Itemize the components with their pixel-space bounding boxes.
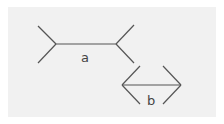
figure-a-fin (116, 44, 134, 63)
figure-a-fin (116, 25, 134, 44)
figure-b-label: b (147, 93, 155, 108)
figure-a-fin (38, 26, 56, 44)
figure-b-fin (163, 66, 181, 85)
figure-b-fin (122, 66, 140, 85)
muller-lyer-diagram: a b (0, 0, 224, 124)
figure-a-label: a (81, 50, 89, 65)
figure-a-fin (38, 44, 56, 63)
figure-b-fin (122, 85, 140, 104)
figure-b-fin (163, 85, 181, 104)
